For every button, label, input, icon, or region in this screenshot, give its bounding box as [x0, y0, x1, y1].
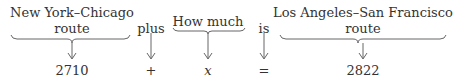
label-la-sf: Los Angeles–San Francisco: [273, 6, 453, 19]
value-2822: 2822: [346, 64, 379, 77]
label-ny-chicago: New York–Chicago: [10, 6, 134, 19]
value-2710: 2710: [55, 64, 88, 77]
label-is: is: [259, 22, 270, 35]
equals-sign: =: [259, 64, 270, 77]
label-la-sf-route: route: [345, 22, 380, 35]
label-ny-chicago-route: route: [54, 22, 89, 35]
brace-icon: [11, 35, 130, 43]
label-plus: plus: [137, 22, 165, 35]
label-how-much: How much: [173, 15, 244, 28]
variable-x: x: [204, 64, 211, 77]
brace-icon: [280, 35, 446, 43]
plus-sign: +: [146, 64, 157, 77]
